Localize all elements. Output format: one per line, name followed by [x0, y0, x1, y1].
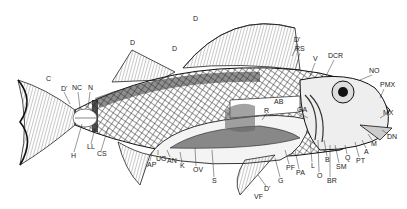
fish-anatomy-diagram: C D' NC N H LL CS D D D D' RS V DCR NO P… [0, 0, 407, 209]
label-CS: CS [97, 150, 107, 157]
label-D-mid: D [172, 45, 177, 52]
label-MX: MX [383, 109, 394, 116]
label-D-prime-tail: D' [61, 85, 67, 92]
label-DCR: DCR [328, 52, 343, 59]
label-OV: OV [193, 166, 203, 173]
label-C: C [46, 75, 51, 82]
label-PT: PT [356, 157, 365, 164]
label-S: S [212, 177, 217, 184]
label-VF: VF [254, 193, 263, 200]
label-NC: NC [72, 84, 82, 91]
anal-fin [118, 142, 150, 185]
label-D-front: D [130, 39, 135, 46]
label-Q: Q [345, 154, 350, 161]
label-G: G [278, 177, 283, 184]
label-B: B [325, 156, 330, 163]
label-N: N [88, 84, 93, 91]
caudal-fin [18, 80, 75, 165]
label-R: R [264, 107, 269, 114]
label-NO: NO [369, 67, 380, 74]
label-A: A [364, 148, 369, 155]
label-RS: RS [295, 45, 305, 52]
label-D-prime-dorsal: D' [294, 36, 300, 43]
label-GA: GA [297, 106, 307, 113]
label-AP: AP [147, 161, 156, 168]
second-dorsal-fin [183, 24, 300, 70]
label-PF: PF [286, 164, 295, 171]
fish-illustration [0, 0, 407, 209]
label-PA: PA [296, 169, 305, 176]
head [300, 76, 392, 150]
label-UG: UG [156, 155, 167, 162]
label-AB: AB [274, 98, 283, 105]
label-D-top: D [193, 15, 198, 22]
label-BR: BR [327, 177, 337, 184]
label-SM: SM [336, 163, 347, 170]
label-K: K [180, 162, 185, 169]
label-D-prime-ventral: D' [264, 185, 270, 192]
label-AN: AN [167, 157, 177, 164]
label-V: V [313, 55, 318, 62]
label-H: H [71, 152, 76, 159]
label-L: L [311, 162, 315, 169]
label-DN: DN [387, 133, 397, 140]
label-PMX: PMX [380, 81, 395, 88]
label-O: O [317, 172, 322, 179]
label-M: M [371, 140, 377, 147]
label-LL: LL [87, 143, 95, 150]
